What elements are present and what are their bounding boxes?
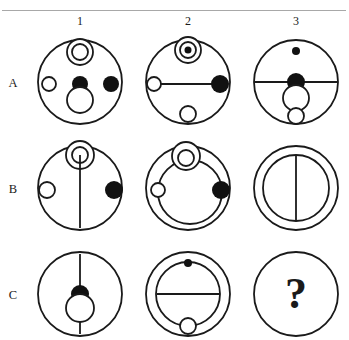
white-circle-4 <box>288 108 304 124</box>
grid-corner-spacer <box>0 14 26 30</box>
matrix-cell-C1[interactable] <box>26 242 134 340</box>
figure-C2 <box>134 242 242 340</box>
white-circle-2 <box>178 150 194 166</box>
figure-A2 <box>134 30 242 136</box>
matrix-cell-A2[interactable] <box>134 30 242 136</box>
black-dot-1 <box>184 259 192 267</box>
matrix-cell-C2[interactable] <box>134 242 242 340</box>
matrix-cell-C3[interactable]: ? <box>242 242 349 340</box>
white-circle-2 <box>42 77 56 91</box>
white-circle-4 <box>147 77 161 91</box>
figure-C1 <box>26 242 134 340</box>
figure-A1 <box>26 30 134 136</box>
figure-B1 <box>26 136 134 242</box>
white-circle-5 <box>67 87 93 113</box>
figure-A3 <box>242 30 349 136</box>
column-label-3: 3 <box>242 14 349 30</box>
matrix-cell-B3[interactable] <box>242 136 349 242</box>
black-dot-0 <box>292 47 300 55</box>
white-circle-2 <box>66 294 94 322</box>
matrix-cell-A3[interactable] <box>242 30 349 136</box>
figure-B2 <box>134 136 242 242</box>
white-circle-1 <box>72 44 88 60</box>
matrix-cell-B2[interactable] <box>134 136 242 242</box>
figure-B3 <box>242 136 349 242</box>
black-dot-2 <box>185 47 192 54</box>
row-label-b: B <box>0 136 26 242</box>
white-circle-3 <box>39 182 55 198</box>
black-dot-4 <box>103 76 119 92</box>
matrix-grid: 1 2 3 A B C ? <box>0 14 349 340</box>
column-label-1: 1 <box>26 14 134 30</box>
question-mark-placeholder: ? <box>285 272 307 316</box>
white-circle-6 <box>180 106 196 122</box>
white-circle-3 <box>180 318 196 334</box>
black-dot-4 <box>105 181 123 199</box>
black-dot-5 <box>211 75 229 93</box>
matrix-cell-A1[interactable] <box>26 30 134 136</box>
matrix-puzzle: 1 2 3 A B C ? <box>0 0 349 340</box>
top-divider <box>2 10 346 11</box>
white-circle-3 <box>151 183 165 197</box>
column-label-2: 2 <box>134 14 242 30</box>
matrix-cell-B1[interactable] <box>26 136 134 242</box>
black-dot-4 <box>212 181 230 199</box>
row-label-a: A <box>0 30 26 136</box>
row-label-c: C <box>0 242 26 340</box>
white-circle-3 <box>283 85 309 111</box>
